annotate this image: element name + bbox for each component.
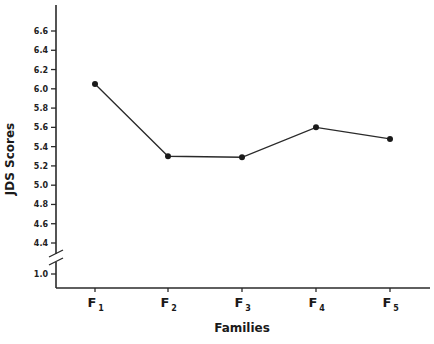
y-tick-label: 6.4 bbox=[34, 46, 49, 55]
x-tick-label: F bbox=[235, 295, 244, 310]
x-tick-label-subscript: 5 bbox=[393, 304, 399, 313]
x-tick-label-subscript: 1 bbox=[98, 304, 104, 313]
x-tick-label: F bbox=[383, 295, 392, 310]
x-tick-label: F bbox=[161, 295, 170, 310]
x-axis: F1F2F3F4F5 bbox=[56, 288, 430, 313]
data-point-marker bbox=[239, 154, 245, 160]
y-tick-label: 5.8 bbox=[34, 104, 49, 113]
y-tick-label: 5.4 bbox=[34, 143, 49, 152]
data-point-marker bbox=[313, 124, 319, 130]
y-axis-title: JDS Scores bbox=[3, 123, 17, 196]
y-tick-label: 4.4 bbox=[34, 239, 49, 248]
data-point-marker bbox=[165, 153, 171, 159]
y-tick-label: 4.8 bbox=[34, 200, 49, 209]
y-tick-label: 5.6 bbox=[34, 123, 49, 132]
x-tick-label: F bbox=[88, 295, 97, 310]
x-tick-label-subscript: 2 bbox=[171, 304, 177, 313]
x-tick-label-subscript: 4 bbox=[319, 304, 325, 313]
y-tick-label: 4.6 bbox=[34, 220, 49, 229]
y-tick-label: 6.2 bbox=[34, 66, 48, 75]
line-chart: 1.04.44.64.85.05.25.45.65.86.06.26.46.6 … bbox=[0, 0, 434, 344]
y-tick-label: 5.0 bbox=[34, 181, 49, 190]
x-tick-label: F bbox=[309, 295, 318, 310]
y-tick-label: 1.0 bbox=[34, 270, 49, 279]
x-axis-title: Families bbox=[214, 321, 270, 335]
data-point-marker bbox=[387, 136, 393, 142]
y-tick-label: 5.2 bbox=[34, 162, 48, 171]
series-line bbox=[95, 84, 390, 157]
y-tick-label: 6.0 bbox=[34, 85, 49, 94]
y-tick-label: 6.6 bbox=[34, 27, 49, 36]
y-axis: 1.04.44.64.85.05.25.45.65.86.06.26.46.6 bbox=[34, 5, 63, 288]
x-tick-label-subscript: 3 bbox=[245, 304, 251, 313]
data-series bbox=[92, 81, 393, 160]
data-point-marker bbox=[92, 81, 98, 87]
